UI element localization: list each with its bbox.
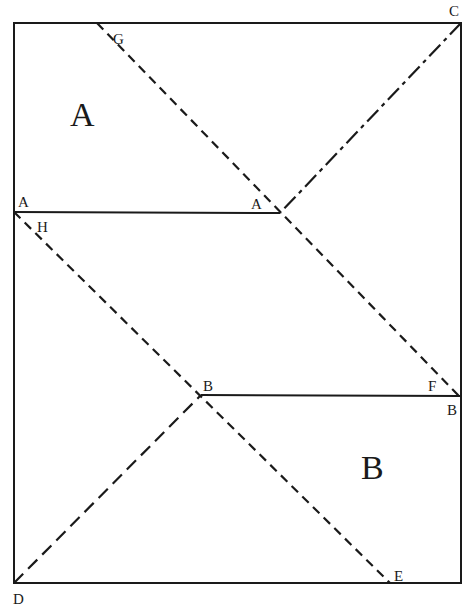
line-A-A — [14, 212, 280, 213]
line-H-E — [14, 212, 390, 583]
line-C-A — [280, 23, 461, 213]
label-F: F — [428, 378, 436, 394]
label-A-mid: A — [251, 196, 262, 212]
label-A-left: A — [18, 194, 29, 210]
label-H: H — [37, 219, 48, 235]
region-label-A: A — [70, 96, 95, 133]
line-G-F — [97, 23, 459, 396]
line-D-B — [14, 395, 201, 583]
label-C: C — [449, 3, 459, 19]
line-B-B — [201, 395, 461, 396]
region-label-B: B — [361, 449, 384, 486]
label-G: G — [113, 31, 124, 47]
label-D: D — [13, 591, 24, 607]
dissection-diagram: G C A A H B F B D E A B — [0, 0, 475, 614]
label-E: E — [394, 568, 403, 584]
label-B-mid: B — [203, 378, 213, 394]
label-B-right: B — [447, 402, 457, 418]
